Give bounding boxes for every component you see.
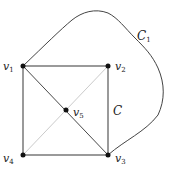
label-v4: v4 bbox=[3, 152, 14, 166]
graph-diagram: v1 v2 v3 v4 v5 C1 C bbox=[0, 0, 171, 172]
label-v2: v2 bbox=[115, 60, 126, 74]
vertex-v5 bbox=[64, 108, 69, 113]
label-c1: C1 bbox=[137, 29, 151, 44]
vertex-v1 bbox=[21, 64, 26, 69]
vertex-v3 bbox=[106, 153, 111, 158]
vertex-v4 bbox=[21, 153, 26, 158]
label-v3: v3 bbox=[115, 152, 126, 166]
label-cycle-c: C bbox=[113, 104, 122, 118]
label-v1: v1 bbox=[3, 60, 14, 74]
vertex-v2 bbox=[106, 64, 111, 69]
label-v5: v5 bbox=[73, 106, 84, 120]
